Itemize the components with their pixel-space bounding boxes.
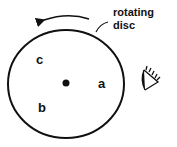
leader-line: [96, 22, 108, 32]
point-c: c: [36, 52, 43, 67]
point-b: b: [38, 100, 46, 115]
point-a: a: [98, 76, 106, 91]
caption-rotating: rotating: [113, 6, 154, 18]
center-dot-icon: [63, 80, 70, 87]
eye-icon: [142, 66, 160, 90]
rotation-arrow-icon: [44, 16, 89, 20]
caption-disc: disc: [113, 19, 135, 31]
rotating-disc-diagram: rotating disc c a b: [0, 0, 177, 147]
